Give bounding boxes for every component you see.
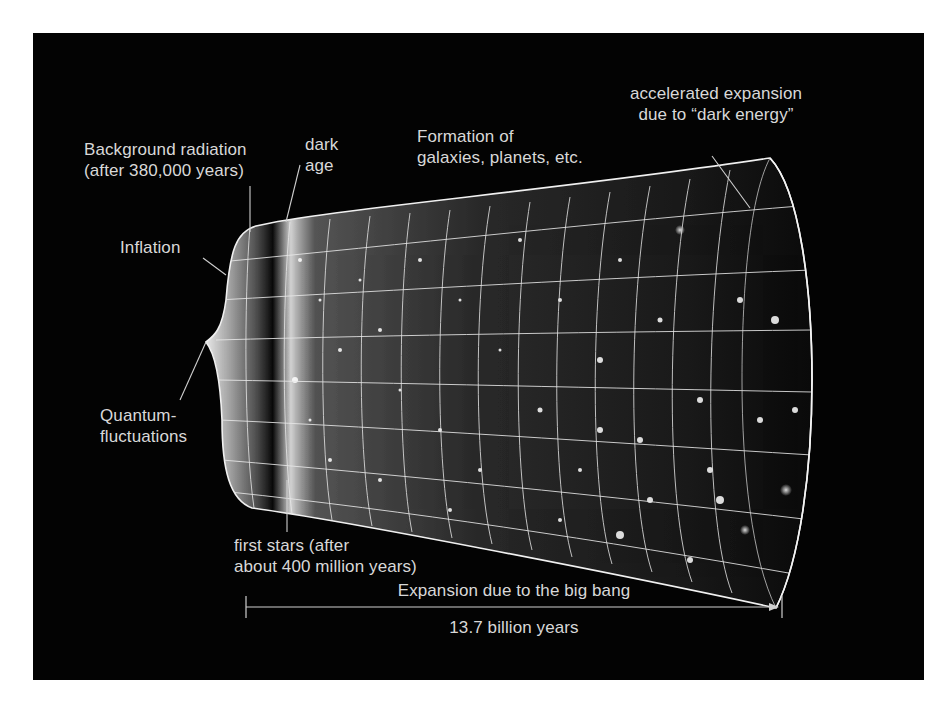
label-line: Quantum-: [100, 405, 187, 426]
label-13-7-billion-years: 13.7 billion years: [246, 617, 782, 638]
label-inflation: Inflation: [120, 237, 180, 258]
label-line: Inflation: [120, 237, 180, 258]
label-dark-age: dark age: [305, 134, 338, 176]
label-line: due to “dark energy”: [610, 104, 822, 125]
label-expansion-big-bang: Expansion due to the big bang: [246, 580, 782, 601]
label-line: (after 380,000 years): [84, 160, 247, 181]
label-line: Background radiation: [84, 139, 247, 160]
label-line: first stars (after: [234, 535, 417, 556]
label-line: fluctuations: [100, 426, 187, 447]
label-line: age: [305, 155, 338, 176]
label-line: accelerated expansion: [610, 83, 822, 104]
label-line: galaxies, planets, etc.: [417, 147, 583, 168]
label-background-radiation: Background radiation (after 380,000 year…: [84, 139, 247, 181]
label-accelerated-expansion: accelerated expansion due to “dark energ…: [610, 83, 822, 125]
label-quantum-fluctuations: Quantum- fluctuations: [100, 405, 187, 447]
label-line: dark: [305, 134, 338, 155]
label-line: Formation of: [417, 126, 583, 147]
label-formation: Formation of galaxies, planets, etc.: [417, 126, 583, 168]
label-first-stars: first stars (after about 400 million yea…: [234, 535, 417, 577]
label-line: about 400 million years): [234, 556, 417, 577]
